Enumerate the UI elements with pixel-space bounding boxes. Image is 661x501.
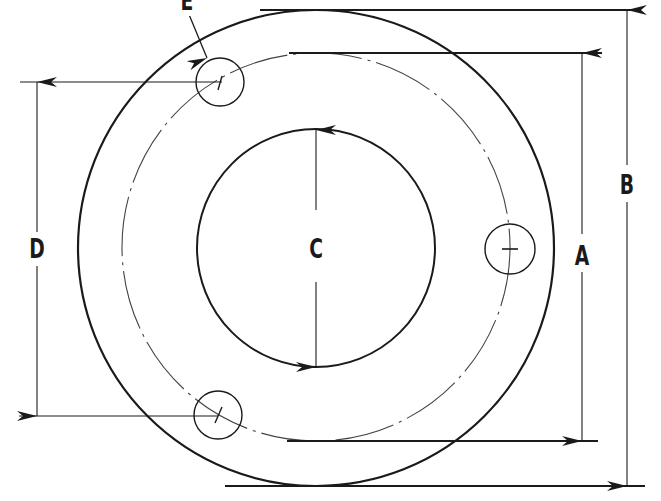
bolt-hole-bottom <box>194 391 242 439</box>
label-d: D <box>28 234 45 264</box>
flange-diagram <box>0 0 661 501</box>
label-a: A <box>573 241 590 271</box>
bolt-hole-right <box>485 224 535 274</box>
e-leader-arrow <box>188 12 207 58</box>
label-e: E <box>178 0 195 16</box>
label-c: C <box>307 234 324 264</box>
label-b: B <box>618 170 635 200</box>
